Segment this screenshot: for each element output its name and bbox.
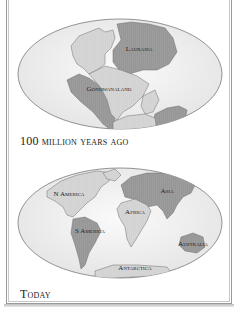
caption-100-million-years-ago: 100 million years ago [20,134,129,149]
label-gondwanaland: Gondwanaland [87,85,132,93]
label-laurasia: Laurasia [126,45,153,53]
caption-today: Today [20,287,51,302]
map-today: N America S America Africa Asia Australi… [17,167,223,279]
frame-shadow [4,304,234,307]
map-100-million-years-ago: Laurasia Gondwanaland [17,18,223,130]
label-asia: Asia [160,187,174,195]
label-africa: Africa [125,208,145,216]
label-south-america: S America [75,227,105,235]
label-antarctica: Antarctica [118,264,152,272]
label-australia: Australia [178,240,208,248]
label-north-america: N America [54,190,85,198]
